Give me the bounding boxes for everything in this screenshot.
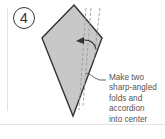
caption-line: Make two <box>109 73 165 83</box>
folded-paper-kite <box>42 5 102 116</box>
caption-line: accordion <box>109 104 165 114</box>
bottom-divider <box>0 124 165 125</box>
caption-line: sharp-angled <box>109 83 165 93</box>
instruction-caption: Make two sharp-angled folds and accordio… <box>109 73 165 125</box>
caption-leader-line <box>86 73 106 80</box>
caption-line: folds and <box>109 94 165 104</box>
